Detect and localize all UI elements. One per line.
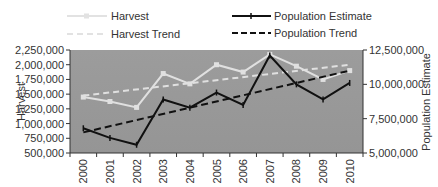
legend-label: Population Trend [274, 27, 357, 39]
legend-item-harvest-trend: Harvest Trend [67, 28, 180, 40]
legend-item-harvest: Harvest [67, 10, 149, 22]
right-tick-label: 12,500,000 [369, 44, 424, 56]
left-tick-label: 2,250,000 [15, 44, 64, 56]
right-tick-label: 10,000,000 [369, 78, 424, 90]
square-marker-icon [161, 71, 166, 76]
left-axis-title: Harvest [15, 83, 27, 121]
x-tick-label: 2000 [77, 159, 89, 183]
square-marker-icon [107, 99, 112, 104]
square-marker-icon [187, 81, 192, 86]
x-tick-label: 2010 [344, 159, 356, 183]
legend-item-population-estimate: Population Estimate [232, 10, 372, 22]
square-marker-icon [81, 95, 86, 100]
legend: Harvest Harvest Trend Population Estimat… [67, 10, 372, 40]
x-tick-label: 2008 [290, 159, 302, 183]
x-axis: 2000200120022003200420052006200720082009… [70, 153, 363, 183]
square-marker-icon [84, 14, 89, 19]
right-axis: 5,000,0007,500,00010,000,00012,500,000 P… [363, 44, 432, 159]
x-tick-label: 2009 [317, 159, 329, 183]
square-marker-icon [214, 62, 219, 67]
square-marker-icon [241, 70, 246, 75]
square-marker-icon [134, 105, 139, 110]
x-tick-label: 2005 [211, 159, 223, 183]
right-axis-title: Population Estimate [420, 53, 432, 151]
square-marker-icon [294, 64, 299, 69]
x-tick-label: 2004 [184, 159, 196, 183]
right-tick-label: 5,000,000 [369, 147, 418, 159]
x-tick-label: 2001 [104, 159, 116, 183]
legend-item-population-trend: Population Trend [232, 27, 357, 39]
legend-label: Population Estimate [274, 10, 372, 22]
square-marker-icon [347, 68, 352, 73]
chart: Harvest Harvest Trend Population Estimat… [0, 0, 438, 187]
left-axis: 500,000750,0001,000,0001,250,0001,500,00… [15, 44, 70, 159]
left-tick-label: 500,000 [24, 147, 64, 159]
legend-label: Harvest [111, 10, 149, 22]
x-tick-label: 2006 [237, 159, 249, 183]
left-tick-label: 750,000 [24, 132, 64, 144]
left-tick-label: 2,000,000 [15, 59, 64, 71]
right-tick-label: 7,500,000 [369, 113, 418, 125]
x-tick-label: 2002 [131, 159, 143, 183]
x-tick-label: 2003 [157, 159, 169, 183]
x-tick-label: 2007 [264, 159, 276, 183]
legend-label: Harvest Trend [111, 28, 180, 40]
